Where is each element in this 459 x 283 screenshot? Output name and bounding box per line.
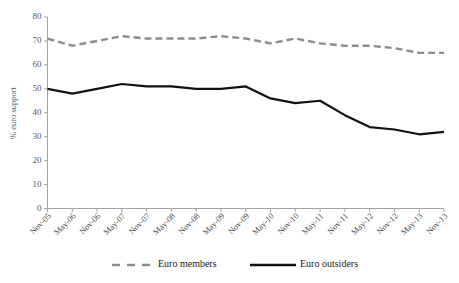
legend-label: Euro members: [158, 258, 217, 269]
x-tick-label: Nov-06: [77, 211, 102, 236]
x-tick-label: Nov-07: [127, 211, 152, 236]
y-axis-ticks: 01020304050607080: [33, 11, 48, 213]
chart-container: 01020304050607080 Nov-05May-06Nov-06May-…: [0, 0, 459, 283]
x-tick-label: May-13: [399, 211, 425, 237]
x-axis-ticks: Nov-05May-06Nov-06May-07Nov-07May-08Nov-…: [27, 209, 449, 237]
x-tick-label: May-08: [151, 211, 177, 237]
x-tick-label: Nov-11: [325, 211, 350, 236]
x-tick-label: Nov-08: [176, 211, 201, 236]
x-tick-label: May-07: [101, 211, 127, 237]
x-tick-label: May-06: [52, 211, 78, 237]
x-tick-label: Nov-12: [374, 211, 399, 236]
x-tick-label: May-10: [250, 211, 276, 237]
y-tick-label: 80: [33, 11, 43, 21]
y-tick-label: 30: [33, 131, 43, 141]
y-tick-label: 60: [33, 59, 43, 69]
plot-frame: [48, 17, 445, 209]
y-tick-label: 40: [33, 107, 43, 117]
y-tick-label: 10: [33, 179, 43, 189]
x-tick-label: Nov-13: [424, 211, 449, 236]
y-tick-label: 0: [37, 203, 42, 213]
y-tick-label: 50: [33, 83, 43, 93]
y-axis-title: % euro support: [8, 86, 18, 139]
series-line-euro-outsiders: [48, 84, 445, 134]
series-line-euro-members: [48, 36, 445, 53]
x-tick-label: Nov-09: [226, 211, 251, 236]
x-tick-label: Nov-05: [27, 211, 52, 236]
x-tick-label: May-11: [300, 211, 326, 237]
y-tick-label: 70: [33, 35, 43, 45]
series-group: [48, 36, 445, 134]
legend-label: Euro outsiders: [300, 258, 358, 269]
x-tick-label: May-09: [200, 211, 226, 237]
chart-legend: Euro membersEuro outsiders: [112, 258, 358, 269]
line-chart: 01020304050607080 Nov-05May-06Nov-06May-…: [0, 0, 459, 283]
x-tick-label: Nov-10: [275, 211, 300, 236]
x-tick-label: May-12: [349, 211, 375, 237]
y-tick-label: 20: [33, 155, 43, 165]
